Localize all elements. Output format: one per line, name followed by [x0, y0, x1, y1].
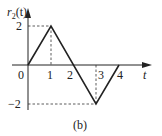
x-tick-3: 3: [98, 68, 104, 82]
waveform-plot: r2(t) 2 −2 0 1 2 3 4 t (b): [0, 0, 162, 136]
origin-label: 0: [18, 68, 24, 82]
y-tick-neg2: −2: [8, 97, 21, 111]
x-axis-label: t: [143, 68, 147, 82]
figure-caption: (b): [73, 118, 87, 132]
x-tick-2: 2: [67, 68, 73, 82]
x-tick-4: 4: [117, 68, 123, 82]
x-tick-1: 1: [47, 68, 53, 82]
y-tick-2: 2: [16, 19, 22, 33]
